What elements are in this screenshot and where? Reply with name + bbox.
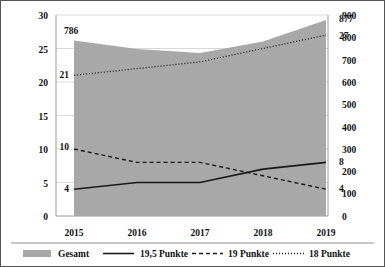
chart-plot-container: 30 25 20 15 10 5 0 900 800 700 600 500 4… — [1, 1, 384, 266]
right-axis-tick-600: 600 — [342, 78, 357, 88]
data-label-19-5-punkte-2015: 4 — [64, 184, 69, 194]
left-axis-tick-25: 25 — [39, 45, 49, 55]
right-axis-tick-700: 700 — [342, 56, 357, 66]
chart-legend: Gesamt 19,5 Punkte 19 Punkte 18 Punkte — [23, 249, 350, 259]
left-axis-tick-30: 30 — [39, 11, 49, 21]
chart-svg: 30 25 20 15 10 5 0 900 800 700 600 500 4… — [1, 1, 384, 266]
right-axis-tick-200: 200 — [342, 167, 357, 177]
legend-swatch-gesamt — [23, 250, 51, 257]
x-axis-tick-2017: 2017 — [191, 228, 210, 238]
data-label-gesamt-2015: 786 — [64, 26, 79, 36]
data-label-18-punkte-2019: 27 — [339, 31, 349, 41]
data-label-gesamt-2019: 877 — [339, 14, 354, 24]
legend-label-18-punkte: 18 Punkte — [309, 249, 350, 259]
left-axis-tick-5: 5 — [43, 179, 48, 189]
left-axis-tick-10: 10 — [39, 145, 49, 155]
x-axis-tick-2015: 2015 — [65, 228, 84, 238]
chart-figure: 30 25 20 15 10 5 0 900 800 700 600 500 4… — [0, 0, 385, 267]
left-axis-tick-0: 0 — [43, 212, 48, 222]
data-label-18-punkte-2015: 21 — [60, 70, 70, 80]
data-label-19-punkte-2019: 4 — [339, 184, 344, 194]
data-label-19-punkte-2015: 10 — [60, 142, 70, 152]
data-label-19-5-punkte-2019: 8 — [339, 157, 344, 167]
legend-label-gesamt: Gesamt — [58, 249, 90, 259]
legend-label-19-5-punkte: 19,5 Punkte — [140, 249, 188, 259]
left-axis-tick-15: 15 — [39, 112, 49, 122]
right-axis-tick-400: 400 — [342, 123, 357, 133]
x-axis-tick-2016: 2016 — [128, 228, 147, 238]
left-axis-tick-20: 20 — [39, 78, 49, 88]
right-axis-tick-500: 500 — [342, 100, 357, 110]
x-axis-tick-2019: 2019 — [317, 228, 336, 238]
right-axis-tick-300: 300 — [342, 145, 357, 155]
legend-label-19-punkte: 19 Punkte — [228, 249, 269, 259]
right-axis-tick-0: 0 — [342, 212, 347, 222]
x-axis-tick-2018: 2018 — [254, 228, 273, 238]
right-axis-tick-100: 100 — [342, 189, 357, 199]
